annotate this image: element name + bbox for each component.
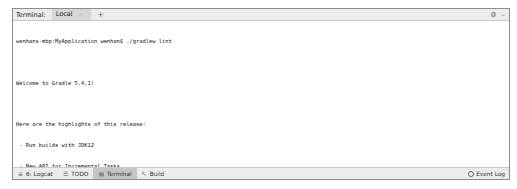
- terminal-line: wenhans-mbp:MyApplication wenhan$ ./grad…: [16, 38, 506, 45]
- new-tab-icon[interactable]: +: [98, 11, 104, 19]
- logcat-button[interactable]: ≡ 6: Logcat: [13, 168, 58, 179]
- tab-local-label: Local: [56, 9, 73, 20]
- todo-button[interactable]: ☰ TODO: [58, 168, 94, 179]
- terminal-line: Here are the highlights of this release:: [16, 121, 506, 128]
- terminal-line: Welcome to Gradle 5.4.1!: [16, 80, 506, 87]
- tool-window-bar: ≡ 6: Logcat ☰ TODO ▤ Terminal ↖ Build Ev…: [13, 167, 509, 179]
- minimize-icon[interactable]: –: [502, 11, 506, 19]
- close-tab-icon[interactable]: ×: [79, 9, 83, 20]
- terminal-output[interactable]: wenhans-mbp:MyApplication wenhan$ ./grad…: [13, 21, 509, 168]
- build-label: Build: [150, 171, 165, 177]
- tab-local[interactable]: Local ×: [52, 9, 91, 20]
- event-log-label: Event Log: [476, 171, 505, 177]
- terminal-line: - Run builds with JDK12: [16, 142, 506, 149]
- event-log-icon: [468, 171, 474, 177]
- logcat-label: 6: Logcat: [26, 171, 53, 177]
- logcat-icon: ≡: [18, 170, 23, 177]
- event-log-button[interactable]: Event Log: [468, 171, 509, 177]
- build-icon: ↖: [142, 170, 147, 177]
- gear-icon[interactable]: ⚙: [490, 11, 496, 19]
- terminal-line: [16, 59, 506, 66]
- todo-icon: ☰: [63, 170, 68, 177]
- terminal-titlebar: Terminal: Local × + ⚙ –: [13, 9, 509, 21]
- terminal-icon: ▤: [98, 170, 104, 177]
- terminal-button[interactable]: ▤ Terminal: [93, 168, 136, 179]
- todo-label: TODO: [71, 171, 88, 177]
- terminal-label: Terminal: [107, 171, 132, 177]
- build-button[interactable]: ↖ Build: [137, 168, 170, 179]
- terminal-title: Terminal:: [16, 11, 46, 19]
- terminal-tool-window: Terminal: Local × + ⚙ – wenhans-mbp:MyAp…: [12, 8, 510, 180]
- terminal-line: [16, 100, 506, 107]
